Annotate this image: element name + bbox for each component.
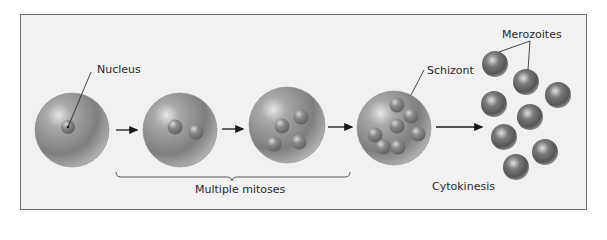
label-merozoites: Merozoites [502,28,562,41]
cell-stage-3 [249,87,325,163]
label-schizont: Schizont [427,64,474,77]
schizont-pointer [411,70,424,95]
label-cytokinesis: Cytokinesis [432,180,495,193]
schizont [357,70,431,165]
merozoites [481,41,571,180]
mitoses-brace [116,172,350,181]
merozoite-pointer-1 [499,41,530,52]
cell-stage-1 [35,72,109,167]
label-nucleus: Nucleus [97,63,141,76]
cell-stage-2 [143,93,217,167]
label-multiple-mitoses: Multiple mitoses [195,183,285,196]
merozoite-pointer-2 [528,41,530,70]
